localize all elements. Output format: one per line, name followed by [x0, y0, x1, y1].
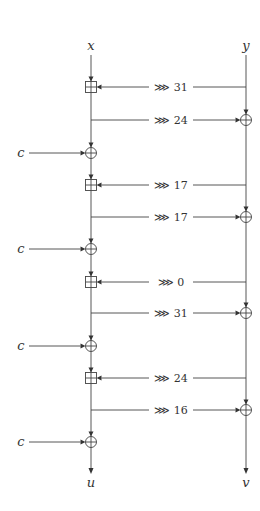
arrow-down-icon-4 [244, 207, 249, 212]
rotation-label-7: ⋙ 31 [154, 307, 188, 320]
rotation-label-9: ⋙ 24 [154, 372, 188, 385]
arrow-left-icon-9 [97, 376, 102, 381]
arrow-down-icon-11 [89, 432, 94, 437]
arrow-right-icon-7 [236, 311, 241, 316]
arrow-right-icon-11 [81, 440, 86, 445]
operation-steps: ⋙ 31⋙ 24c⋙ 17⋙ 17c⋙ 0⋙ 31c⋙ 24⋙ 16c [17, 77, 251, 450]
rotation-label-10: ⋙ 16 [154, 404, 188, 417]
input-x-label: x [87, 38, 95, 53]
arrow-down-icon-8 [89, 336, 94, 341]
rotation-label-1: ⋙ 24 [154, 114, 188, 127]
arrow-right-icon-1 [236, 118, 241, 123]
rotation-label-4: ⋙ 17 [154, 211, 188, 224]
output-u-arrow-icon [89, 468, 94, 474]
arrow-left-icon-0 [97, 85, 102, 90]
arrow-down-icon-5 [89, 239, 94, 244]
constant-c-label-5: c [17, 241, 25, 256]
output-v-label: v [242, 475, 250, 490]
arrow-down-icon-2 [89, 143, 94, 148]
arrow-right-icon-4 [236, 215, 241, 220]
arrow-right-icon-10 [236, 408, 241, 413]
arrow-down-icon-0 [89, 77, 94, 82]
arrow-down-icon-10 [244, 400, 249, 405]
arrow-down-icon-7 [244, 303, 249, 308]
output-u-label: u [87, 475, 95, 490]
arx-diagram: x y u v ⋙ 31⋙ 24c⋙ 17⋙ 17c⋙ 0⋙ 31c⋙ 24⋙ … [0, 0, 260, 511]
arrow-left-icon-3 [97, 183, 102, 188]
constant-c-label-8: c [17, 338, 25, 353]
output-v-arrow-icon [244, 468, 249, 474]
arrow-down-icon-6 [89, 272, 94, 277]
rotation-label-6: ⋙ 0 [158, 276, 185, 289]
arrow-down-icon-3 [89, 175, 94, 180]
input-y-label: y [241, 38, 250, 53]
arrow-right-icon-2 [81, 151, 86, 156]
constant-c-label-2: c [17, 145, 25, 160]
arrow-down-icon-9 [89, 368, 94, 373]
constant-c-label-11: c [17, 434, 25, 449]
arrow-down-icon-1 [244, 110, 249, 115]
arrow-right-icon-5 [81, 247, 86, 252]
arrow-left-icon-6 [97, 280, 102, 285]
rotation-label-0: ⋙ 31 [154, 81, 188, 94]
rotation-label-3: ⋙ 17 [154, 179, 188, 192]
arrow-right-icon-8 [81, 344, 86, 349]
